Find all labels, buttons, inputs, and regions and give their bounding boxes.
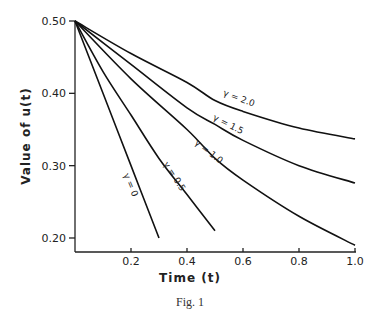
curve-label: γ = 0 bbox=[121, 172, 140, 199]
line-chart: 0.200.300.400.50 0.20.40.60.81.0 γ = 0γ … bbox=[0, 0, 381, 314]
y-ticks: 0.200.300.400.50 bbox=[42, 15, 76, 245]
x-ticks: 0.20.40.60.81.0 bbox=[122, 248, 364, 268]
y-tick-label: 0.30 bbox=[42, 160, 67, 173]
curve-labels: γ = 0γ = 0.5γ = 1.0γ = 1.5γ = 2.0 bbox=[121, 88, 256, 198]
x-tick-label: 0.2 bbox=[122, 255, 140, 268]
curve-line bbox=[75, 21, 215, 231]
curve-label: γ = 1.0 bbox=[193, 138, 225, 166]
x-tick-label: 0.6 bbox=[234, 255, 252, 268]
curve-label: γ = 0.5 bbox=[161, 160, 187, 193]
y-axis-title: Value of u(t) bbox=[19, 87, 33, 185]
x-tick-label: 0.8 bbox=[290, 255, 308, 268]
y-tick-label: 0.50 bbox=[42, 15, 67, 28]
y-tick-label: 0.40 bbox=[42, 87, 67, 100]
y-tick-label: 0.20 bbox=[42, 232, 67, 245]
x-axis-title: Time (t) bbox=[159, 271, 221, 285]
figure-caption: Fig. 1 bbox=[176, 295, 204, 309]
curves bbox=[75, 21, 355, 245]
curve-line bbox=[75, 21, 355, 245]
x-tick-label: 0.4 bbox=[178, 255, 196, 268]
x-tick-label: 1.0 bbox=[346, 255, 364, 268]
